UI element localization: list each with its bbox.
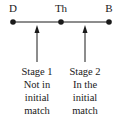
node-label-d: D (9, 3, 17, 14)
caption-line: In the (69, 78, 100, 91)
caption-line: Not in (21, 78, 52, 91)
caption-line: Stage 1 (21, 65, 52, 78)
arrow-stage-2 (83, 25, 88, 62)
arrowhead-icon (35, 25, 40, 33)
node-label-b: B (105, 3, 112, 14)
caption-line: initial (69, 91, 100, 104)
caption-line: Stage 2 (69, 65, 100, 78)
node-b-dot (106, 19, 112, 25)
node-label-th: Th (55, 3, 67, 14)
caption-stage-2: Stage 2 In the initial match (69, 65, 100, 117)
caption-line: match (69, 104, 100, 117)
arrowhead-icon (83, 25, 88, 33)
node-th-dot (58, 19, 64, 25)
caption-stage-1: Stage 1 Not in initial match (21, 65, 52, 117)
caption-line: initial (21, 91, 52, 104)
caption-line: match (21, 104, 52, 117)
node-d-dot (10, 19, 16, 25)
arrow-stage-1 (35, 25, 40, 62)
